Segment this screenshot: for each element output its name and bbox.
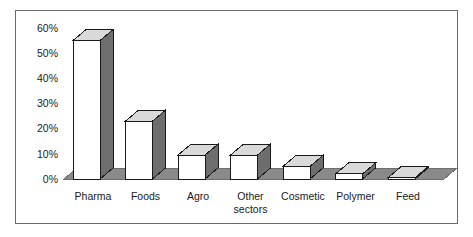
chart-frame: 0%10%20%30%40%50%60%PharmaFoodsAgroOther… bbox=[15, 10, 458, 224]
x-axis-category-label: Pharma bbox=[75, 190, 112, 202]
x-axis-category-label: Cosmetic bbox=[281, 190, 325, 202]
x-axis-category-label: Other bbox=[237, 190, 264, 202]
y-axis-tick-label: 10% bbox=[37, 148, 58, 160]
bar-chart-plot: 0%10%20%30%40%50%60%PharmaFoodsAgroOther… bbox=[16, 11, 457, 223]
bar-front-face bbox=[336, 174, 363, 179]
bar-front-face bbox=[231, 155, 258, 179]
y-axis-tick-label: 20% bbox=[37, 122, 58, 134]
y-axis-tick-label: 30% bbox=[37, 97, 58, 109]
y-axis-tick-label: 0% bbox=[43, 173, 58, 185]
y-axis-tick-label: 40% bbox=[37, 72, 58, 84]
bar-front-face bbox=[388, 178, 415, 179]
y-axis-tick-label: 60% bbox=[37, 22, 58, 34]
bar-side-face bbox=[153, 110, 166, 179]
bar-front-face bbox=[73, 41, 100, 179]
bar-column[interactable] bbox=[73, 30, 113, 179]
x-axis-category-group: PharmaFoodsAgroOthersectorsCosmeticPolym… bbox=[75, 190, 421, 215]
x-axis-category-label: Feed bbox=[396, 190, 420, 202]
y-axis-tick-label: 50% bbox=[37, 47, 58, 59]
bar-column[interactable] bbox=[126, 110, 166, 179]
bar-front-face bbox=[126, 121, 153, 179]
y-axis-tick-group: 0%10%20%30%40%50%60% bbox=[37, 22, 58, 185]
x-axis-category-label: Foods bbox=[131, 190, 160, 202]
x-axis-category-label: Agro bbox=[187, 190, 209, 202]
x-axis-category-label: Polymer bbox=[336, 190, 375, 202]
bar-front-face bbox=[283, 166, 310, 179]
bar-side-face bbox=[100, 30, 113, 179]
bar-front-face bbox=[178, 155, 205, 179]
bar-series-group bbox=[73, 30, 428, 179]
x-axis-category-label: sectors bbox=[234, 203, 268, 215]
